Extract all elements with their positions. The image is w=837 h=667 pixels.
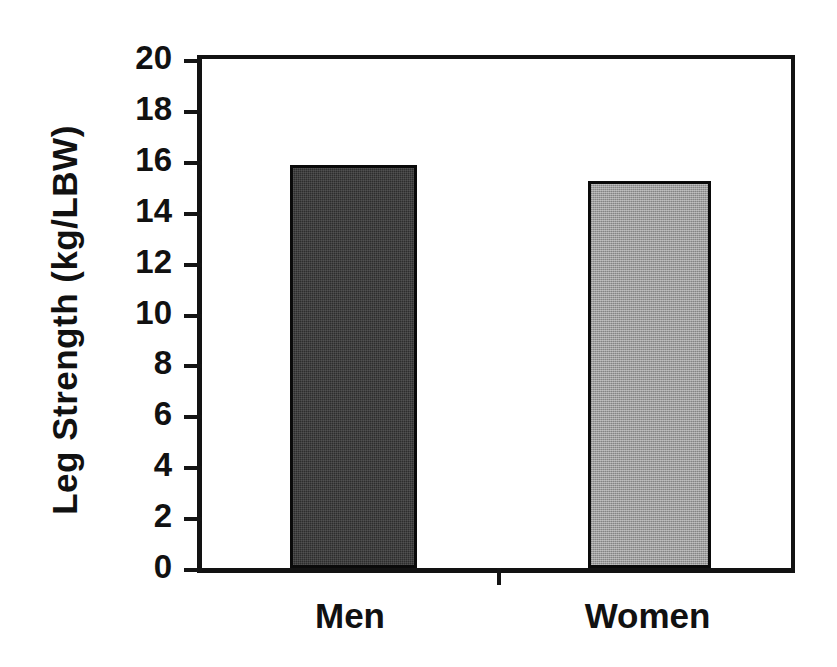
y-axis-tick [184,110,202,114]
y-axis-tick-label: 6 [82,397,172,430]
bar-men [290,165,417,568]
y-axis-tick-label: 2 [82,499,172,532]
y-axis-tick-label: 10 [82,296,172,329]
x-axis-label-women: Women [525,598,770,633]
y-axis-tick [184,415,202,419]
y-axis-tick [184,161,202,165]
y-axis-tick-label: 18 [82,92,172,125]
y-axis-tick-label: 16 [82,143,172,176]
x-axis-label-men: Men [230,598,470,633]
x-axis-tick [497,568,501,585]
y-axis-tick [184,517,202,521]
y-axis-tick [184,314,202,318]
y-axis-tick-label: 0 [82,550,172,583]
bar-chart-figure: Leg Strength (kg/LBW) 20181614121086420 … [0,0,837,667]
y-axis-tick-label: 20 [82,41,172,74]
y-axis-tick [184,59,202,63]
y-axis-tick [184,466,202,470]
y-axis-tick-label: 8 [82,346,172,379]
y-axis-tick [184,263,202,267]
bar-women [588,181,711,568]
y-axis-tick-label: 14 [82,194,172,227]
y-axis-tick [184,568,202,572]
plot-area: 20181614121086420 [202,59,791,568]
y-axis-tick-label: 12 [82,245,172,278]
y-axis-tick-label: 4 [82,448,172,481]
plot-area-frame: 20181614121086420 [197,55,795,573]
y-axis-title: Leg Strength (kg/LBW) [45,40,85,600]
y-axis-tick [184,364,202,368]
y-axis-tick [184,212,202,216]
